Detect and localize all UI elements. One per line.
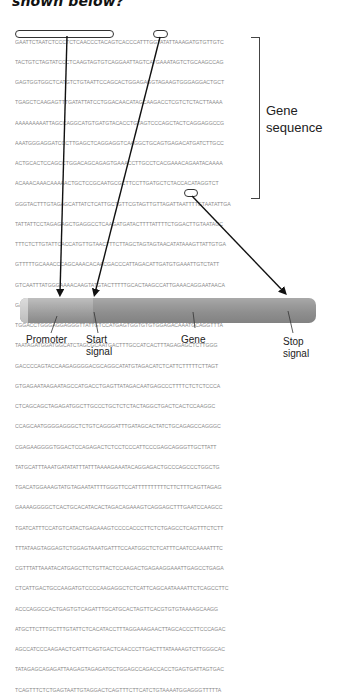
- sequence-line: ACCCAGGCCACTGAGTGTCAGATTTGCATGCACTAGTTCA…: [15, 606, 245, 613]
- stop-arrow: [192, 196, 284, 292]
- sequence-line: TTTATAAGTAGGAGTCTGGAGTAAATGATTTCCAATGGCT…: [15, 545, 245, 552]
- sequence-line: TGATCATTTCCATGTCATACTGAGAAAGTCCCCACCCTTC…: [15, 525, 245, 532]
- sequence-line: TCAGTTTCTCTGAGTAATTGTAGGACTCAGTTTCTTCATC…: [15, 687, 245, 694]
- sequence-line: TGACATGGAAAGTATGTAGAATATTTTGGGTTCCATTTTT…: [15, 484, 245, 491]
- promoter-arrow: [60, 36, 67, 293]
- sequence-line: AGCCATCCCAAGAACTCATTTCAGTGACTCAACCCTTGAC…: [15, 646, 245, 653]
- stop-signal-label: Stop signal: [283, 336, 309, 360]
- sequence-line: CGAGAAGGGGTGGACTCCAGAGACTCTCCTCCCATTCCCG…: [15, 444, 245, 451]
- sequence-line: CGTTTATTAAATACATGAGCTTCTGTTACTCCAAGACTGA…: [15, 565, 245, 572]
- stop-leader: [288, 311, 293, 333]
- gene-label: Gene: [181, 334, 205, 346]
- promoter-label: Promoter: [26, 334, 67, 346]
- sequence-line: TATGCATTTAAATGATATATTTATTTAAAAGAAATACAGG…: [15, 464, 245, 471]
- promoter-leader: [51, 316, 57, 333]
- sequence-line: CCAGCAATGGGGAGGGCTCTGTCAGGGATTTGATAGCACT…: [15, 423, 245, 430]
- sequence-line: ATGCTTCTTTGCTTTGTATTCTCACATACCTTTAGGAAAG…: [15, 626, 245, 633]
- sequence-line: GAAAAGGGGCTCACTGCACATACACTAGACAGAAAGTCAG…: [15, 504, 245, 511]
- start-arrow: [95, 37, 160, 293]
- sequence-line: CTCATTGACTGCCAAGATGTCCCCAAGAGGCTCTCATTCA…: [15, 585, 245, 592]
- sequence-line: TATAGAGCAGAGATTAAGAGTAGAGATGCTGGAGCCAGAC…: [15, 666, 245, 673]
- sequence-line: GTGAGAATAAGAATAGCCATGACCTGAGTTATAGACAATG…: [15, 383, 245, 390]
- start-signal-label: Start signal: [86, 334, 112, 358]
- sequence-line: CTCAGCAGCTAGAGATGGCTTGCCCTGCTCTCTACTAGGC…: [15, 403, 245, 410]
- start-leader: [94, 312, 98, 333]
- gene-leader: [193, 312, 195, 328]
